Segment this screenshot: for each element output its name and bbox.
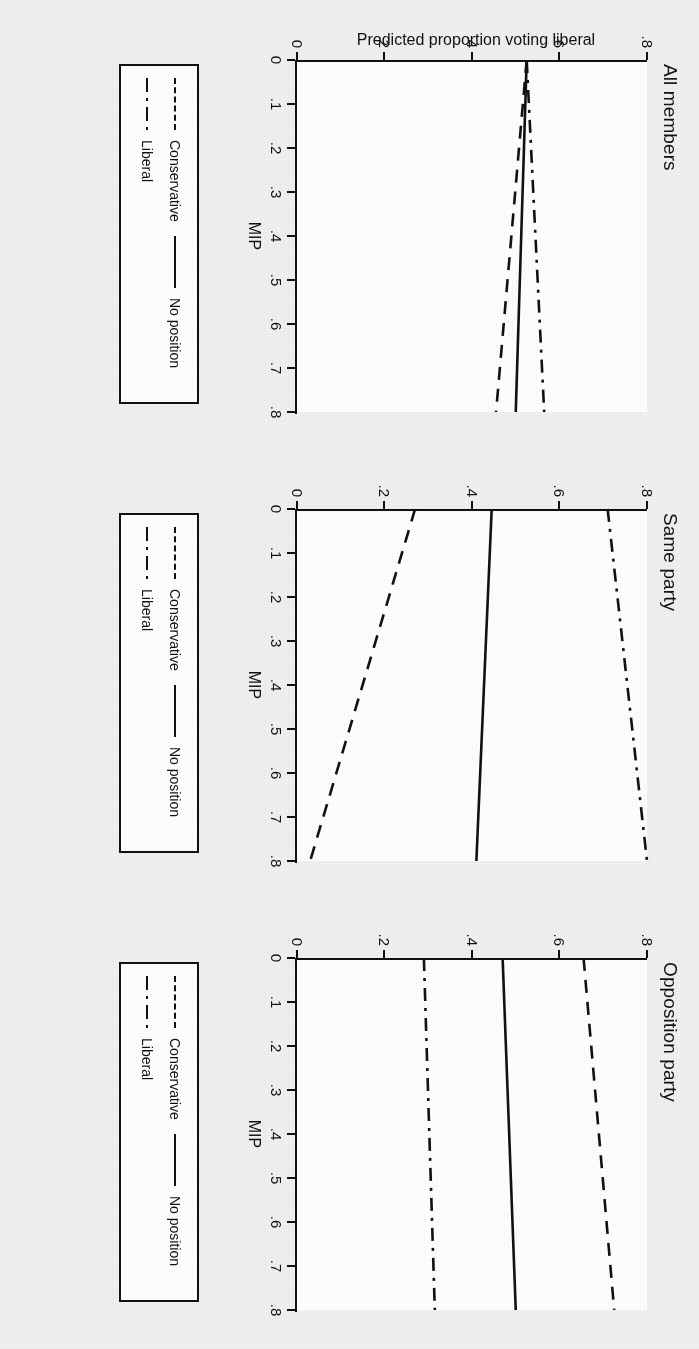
series-line-no-position	[476, 509, 491, 861]
chart-panel: All members0.2.4.6.80.1.2.3.4.5.6.7.8MIP…	[0, 0, 699, 449]
legend-item: No position	[161, 236, 189, 368]
figure-page: All members0.2.4.6.80.1.2.3.4.5.6.7.8MIP…	[0, 0, 699, 1349]
legend-item-label: Conservative	[167, 589, 183, 671]
series-line-liberal	[424, 958, 435, 1310]
legend-column-left: ConservativeLiberal	[133, 976, 189, 1120]
series-lines	[239, 0, 699, 449]
legend-item-label: Liberal	[139, 589, 155, 631]
legend-column-right: No position	[161, 685, 189, 817]
legend-line-sample-dashed	[174, 527, 176, 579]
legend-item-label: No position	[167, 298, 183, 368]
chart-panel: Opposition party0.2.4.6.80.1.2.3.4.5.6.7…	[0, 898, 699, 1347]
series-lines	[239, 898, 699, 1347]
panel-row: All members0.2.4.6.80.1.2.3.4.5.6.7.8MIP…	[0, 0, 699, 1349]
legend-item: Liberal	[133, 78, 161, 222]
legend-line-sample-dashdot	[146, 527, 148, 579]
legend-item: Conservative	[161, 78, 189, 222]
legend: ConservativeLiberalNo position	[119, 962, 199, 1302]
legend-item-label: Conservative	[167, 1038, 183, 1120]
legend-item: No position	[161, 685, 189, 817]
legend-item-label: Liberal	[139, 140, 155, 182]
legend: ConservativeLiberalNo position	[119, 513, 199, 853]
legend-column-left: ConservativeLiberal	[133, 78, 189, 222]
legend-column-right: No position	[161, 236, 189, 368]
legend: ConservativeLiberalNo position	[119, 64, 199, 404]
legend-line-sample-solid	[174, 236, 176, 288]
series-line-liberal	[608, 509, 647, 861]
series-lines	[239, 449, 699, 898]
series-line-conservative	[584, 958, 615, 1310]
legend-column-left: ConservativeLiberal	[133, 527, 189, 671]
legend-line-sample-dashed	[174, 78, 176, 130]
legend-item: Liberal	[133, 527, 161, 671]
series-line-no-position	[503, 958, 516, 1310]
legend-column-right: No position	[161, 1134, 189, 1266]
series-line-conservative	[310, 509, 415, 861]
legend-item: Conservative	[161, 527, 189, 671]
legend-line-sample-dashed	[174, 976, 176, 1028]
legend-item: No position	[161, 1134, 189, 1266]
series-line-liberal	[527, 60, 545, 412]
legend-line-sample-solid	[174, 685, 176, 737]
rotated-figure-container: All members0.2.4.6.80.1.2.3.4.5.6.7.8MIP…	[0, 0, 699, 1349]
legend-item: Conservative	[161, 976, 189, 1120]
legend-item-label: Conservative	[167, 140, 183, 222]
legend-line-sample-solid	[174, 1134, 176, 1186]
legend-item: Liberal	[133, 976, 161, 1120]
legend-line-sample-dashdot	[146, 976, 148, 1028]
legend-item-label: No position	[167, 1196, 183, 1266]
legend-item-label: No position	[167, 747, 183, 817]
chart-panel: Same party0.2.4.6.80.1.2.3.4.5.6.7.8MIPC…	[0, 449, 699, 898]
legend-item-label: Liberal	[139, 1038, 155, 1080]
legend-line-sample-dashdot	[146, 78, 148, 130]
